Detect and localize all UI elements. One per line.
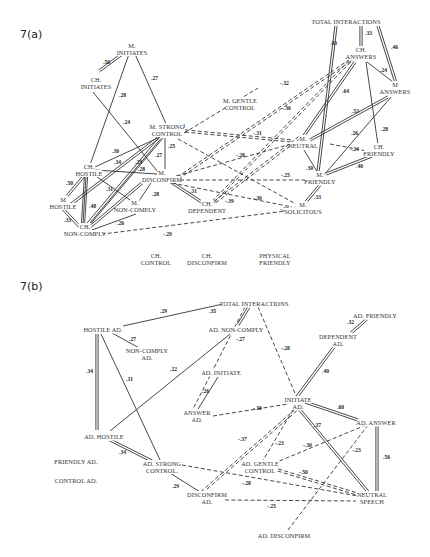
node-noncomply-ad: NON-COMPLYAD. (126, 347, 169, 362)
node-m-noncomply: M.NON-COMPLY (114, 199, 157, 214)
node-dependent-ad: DEPENDENTAD. (319, 333, 357, 348)
node-leg-ch-control: CH.CONTROL (141, 252, 171, 267)
edge-weight-label: -.30 (253, 195, 262, 201)
path-edge: .33 (304, 184, 321, 203)
node-label: CONTROL. (146, 467, 178, 474)
edge-weight-label: .56 (383, 454, 390, 460)
node-label: NEUTRAL (288, 142, 318, 149)
edge-weight-label: -.36 (282, 105, 291, 111)
node-label: DISCONFIRM (142, 176, 182, 183)
path-edge: .60 (305, 401, 359, 421)
path-edge: -.25 (180, 172, 308, 180)
edge-weight-label: .25 (168, 143, 175, 149)
node-ad-hostile: AD. HOSTILE (84, 433, 125, 441)
node-label: CONTROL (152, 130, 182, 137)
node-ch-ans: CH.ANSWERS (346, 46, 377, 61)
path-edge: .25 (165, 138, 175, 170)
node-label: TOTAL INTERACTIONS (312, 18, 381, 25)
path-edge: .28 (90, 54, 129, 165)
panel-title-7a: 7(a) (20, 28, 42, 41)
node-label: AD. (333, 340, 344, 347)
edge-weight-label: .33 (365, 30, 372, 36)
node-label: CH. (151, 252, 162, 259)
edge-weight-label: .30 (112, 148, 119, 154)
edge-weight-label: -.28 (236, 152, 245, 158)
edge-weight-label: .46 (391, 44, 398, 50)
edge-weight-label: .28 (381, 126, 388, 132)
edge-weight-label: .28 (119, 92, 126, 98)
path-edge: -.29 (95, 210, 294, 237)
node-friendly-ad: FRIENDLY AD. (54, 458, 98, 466)
edge-weight-label: -.30 (253, 405, 262, 411)
node-m-strong: M. STRONGCONTROL (150, 123, 185, 138)
node-label: ANSWERS (380, 88, 411, 95)
node-m-init: M.INITIATES (115, 42, 149, 57)
node-leg-ch-disconfirm: CH.DISCONFIRM (187, 252, 227, 267)
node-ad-friendly: AD. FRIENDLY (353, 312, 397, 320)
node-label: AD. NON-COMPLY (209, 326, 264, 333)
path-edge: .33 (360, 26, 372, 46)
node-total: TOTAL INTERACTIONS (312, 18, 381, 26)
edge-weight-label: .35 (209, 308, 216, 314)
edge-weight-label: .40 (322, 368, 329, 374)
edge-weight-label: -.28 (242, 480, 251, 486)
node-label: CH. (356, 46, 367, 53)
node-m-ans: MANSWERS (380, 81, 411, 96)
edge-weight-label: .34 (114, 159, 121, 165)
edge-weight-label: .26 (117, 220, 124, 226)
path-edge: .33 (61, 207, 81, 228)
edge-weight-label: .29 (160, 308, 167, 314)
node-label: AD. INITIATE (201, 369, 241, 376)
node-initiate-ad: INITIATEAD. (283, 396, 313, 411)
node-label: M. (299, 135, 307, 142)
node-label: M. (158, 169, 166, 176)
node-answer-ad: ANSWERAD. (183, 409, 211, 424)
path-edge: .43 (317, 26, 337, 172)
path-edge: .32 (347, 318, 368, 334)
node-control-ad: CONTROL AD. (55, 477, 98, 485)
edge-weight-label: .40 (356, 163, 363, 169)
node-ad-disconfirm: AD. DISCONFIRM (258, 532, 311, 540)
node-label: INITIATE (284, 396, 311, 403)
edge-weight-label: .50 (66, 180, 73, 186)
node-label: AD. FRIENDLY (353, 312, 397, 319)
edge-weight-label: .32 (347, 319, 354, 325)
node-ad-strong: AD. STRONGCONTROL. (143, 460, 182, 475)
node-label: NEUTRAL (357, 491, 387, 498)
edge-weight-label: .26 (351, 130, 358, 136)
node-label: CONTROL (141, 259, 171, 266)
node-label: CH. (91, 76, 102, 83)
node-ch-dependent: CH.DEPENDENT (188, 200, 226, 215)
node-ad-answer: AD. ANSWER (356, 419, 396, 427)
node-m-solicit: M.SOLICITOUS (284, 201, 322, 216)
node-label: AD. (202, 498, 213, 505)
node-m-disconfirm: M.DISCONFIRM (142, 169, 182, 184)
path-edge: -.23 (262, 410, 293, 462)
node-label: HOSTILE (50, 203, 77, 210)
edge-weight-label: .50 (103, 59, 110, 65)
node-label: NON-COMPLY (126, 347, 169, 354)
edge-weight-label: -.39 (225, 198, 234, 204)
edge-weight-label: .33 (64, 217, 71, 223)
edge-weight-label: -.28 (281, 345, 290, 351)
node-label: NON-COMPLY (114, 206, 157, 213)
edge-weight-label: -.30 (303, 442, 312, 448)
edge-weight-label: .24 (380, 67, 387, 73)
node-label: FRIENDLY AD. (54, 458, 98, 465)
edge-weight-label: .31 (106, 186, 113, 192)
node-label: DISCONFIRM (187, 491, 227, 498)
edge-weight-label: -.25 (281, 172, 290, 178)
path-edge: .24 (93, 92, 158, 172)
node-label: CONTROL AD. (55, 477, 98, 484)
node-label: PHYSICAL (259, 252, 291, 259)
panel-title-7b: 7(b) (20, 280, 43, 293)
edge-weight-label: .29 (172, 483, 179, 489)
path-edge: -.25 (225, 500, 356, 509)
node-ad-initiate: AD. INITIATE (199, 369, 243, 377)
node-label: M (392, 81, 398, 88)
node-label: CH. (374, 143, 385, 150)
node-label: FRIENDLY (304, 178, 336, 185)
edge-weight-label: .33 (314, 194, 321, 200)
edge-weight-label: .64 (342, 88, 349, 94)
edge-weight-label: .28 (152, 191, 159, 197)
